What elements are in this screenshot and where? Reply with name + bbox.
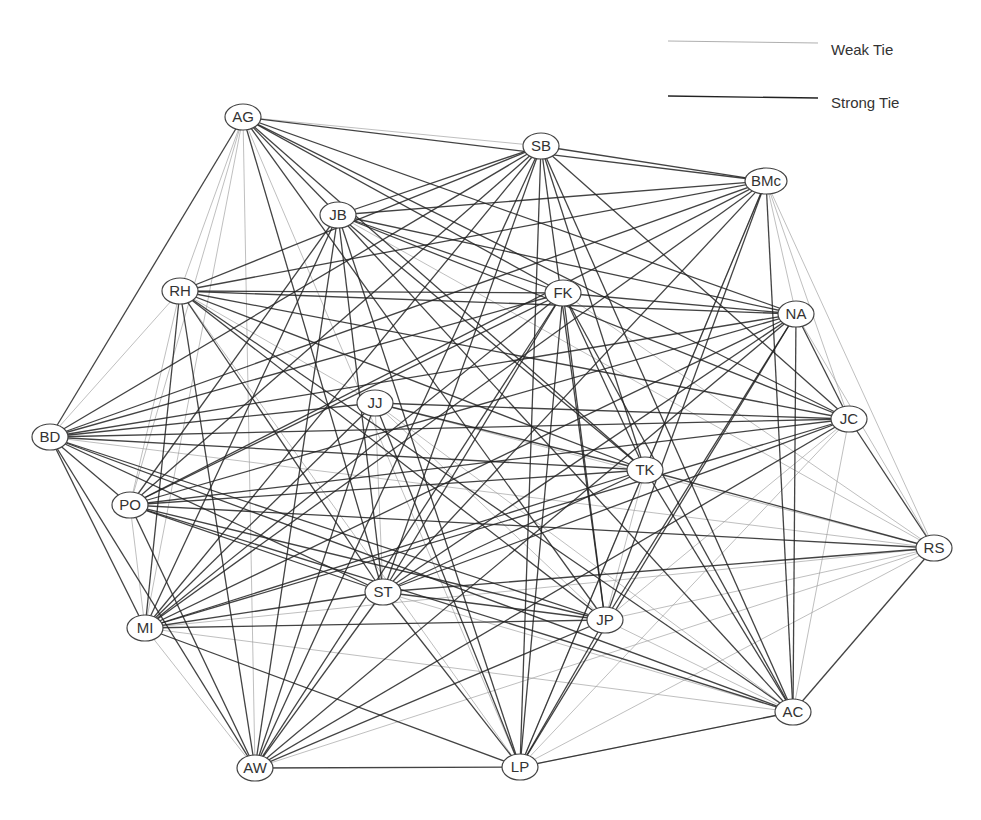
strong-tie-edge-JB-FK: [338, 215, 563, 293]
weak-tie-edge-RS-MI: [145, 548, 934, 628]
node-label: PO: [119, 496, 141, 513]
strong-tie-edge-AW-LP: [255, 767, 520, 768]
weak-tie-edge-AG-LP: [243, 117, 520, 767]
node-mi: MI: [127, 615, 163, 641]
node-rs: RS: [916, 535, 952, 561]
weak-tie-edge-RS-AW: [255, 548, 934, 768]
node-jb: JB: [320, 202, 356, 228]
weak-tie-edge-RS-JP: [605, 548, 934, 620]
node-label: RH: [169, 282, 191, 299]
node-bmc: BMc: [745, 168, 787, 194]
weak-tie-edge-AG-RH: [180, 117, 243, 291]
strong-tie-edge-ST-MI: [145, 592, 383, 628]
node-label: NA: [786, 305, 807, 322]
node-label: ST: [373, 583, 392, 600]
node-jp: JP: [587, 607, 623, 633]
node-lp: LP: [502, 754, 538, 780]
weak-tie-edge-BMc-RS: [766, 181, 934, 548]
node-label: AG: [232, 108, 254, 125]
weak-tie-edge-RH-PO: [130, 291, 180, 505]
node-label: JJ: [368, 394, 383, 411]
weak-tie-edge-RS-LP: [520, 548, 934, 767]
node-st: ST: [365, 579, 401, 605]
node-label: BMc: [751, 172, 782, 189]
strong-tie-edge-ST-RS: [383, 548, 934, 592]
strong-tie-edge-SB-PO: [130, 146, 541, 505]
strong-tie-edge-BMc-AC: [766, 181, 793, 712]
weak-tie-edge-RH-BD: [50, 291, 180, 437]
node-tk: TK: [627, 457, 663, 483]
weak-tie-edge-JC-AC: [793, 419, 849, 712]
node-aw: AW: [237, 755, 273, 781]
weak-tie-edges: [50, 117, 934, 768]
node-jj: JJ: [357, 390, 393, 416]
weak-tie-edge-PO-MI: [130, 505, 145, 628]
legend-strong-tie-label: Strong Tie: [831, 94, 899, 111]
strong-tie-edge-JP-AW: [255, 620, 605, 768]
network-graph: AGSBBMcJBRHFKNAJJJCBDTKPORSSTMIJPACAWLP: [0, 0, 981, 820]
strong-tie-edge-AG-BMc: [243, 117, 766, 181]
strong-tie-edge-ST-LP: [383, 592, 520, 767]
node-po: PO: [112, 492, 148, 518]
node-label: RS: [924, 539, 945, 556]
strong-tie-edges: [50, 117, 934, 768]
strong-tie-edge-SB-RH: [180, 146, 541, 291]
strong-tie-edge-FK-LP: [520, 293, 563, 767]
strong-tie-edge-JB-PO: [130, 215, 338, 505]
node-fk: FK: [545, 280, 581, 306]
strong-tie-edge-FK-NA: [563, 293, 796, 314]
strong-tie-edge-AC-RS: [793, 548, 934, 712]
legend: [668, 41, 818, 98]
node-label: AC: [783, 703, 804, 720]
legend-weak-tie-line: [668, 41, 818, 43]
strong-tie-edge-NA-AC: [793, 314, 796, 712]
strong-tie-edge-BD-MI: [50, 437, 145, 628]
node-label: MI: [137, 619, 154, 636]
node-label: JP: [596, 611, 614, 628]
strong-tie-edge-RH-MI: [145, 291, 180, 628]
node-label: SB: [531, 137, 551, 154]
strong-tie-edge-JJ-AW: [255, 403, 375, 768]
legend-weak-tie-label: Weak Tie: [831, 41, 893, 58]
node-label: TK: [635, 461, 654, 478]
node-bd: BD: [32, 424, 68, 450]
strong-tie-edge-BMc-JB: [338, 181, 766, 215]
weak-tie-edge-BD-RS: [50, 437, 934, 548]
node-na: NA: [778, 301, 814, 327]
node-rh: RH: [162, 278, 198, 304]
strong-tie-edge-ST-JP: [383, 592, 605, 620]
node-label: JC: [840, 410, 859, 427]
weak-tie-edge-ST-AC: [383, 592, 793, 712]
node-ag: AG: [225, 104, 261, 130]
strong-tie-edge-AG-ST: [243, 117, 383, 592]
weak-tie-edge-RH-JJ: [180, 291, 375, 403]
node-ac: AC: [775, 699, 811, 725]
weak-tie-edge-JJ-JP: [375, 403, 605, 620]
strong-tie-edge-SB-JB: [338, 146, 541, 215]
node-label: AW: [243, 759, 267, 776]
node-jc: JC: [831, 406, 867, 432]
strong-tie-edge-AC-LP: [520, 712, 793, 767]
strong-tie-edge-TK-PO: [130, 470, 645, 505]
node-sb: SB: [523, 133, 559, 159]
weak-tie-edge-FK-RS: [563, 293, 934, 548]
node-label: BD: [40, 428, 61, 445]
node-label: JB: [329, 206, 347, 223]
node-label: LP: [511, 758, 529, 775]
node-label: FK: [553, 284, 572, 301]
weak-tie-edge-BMc-NA: [766, 181, 796, 314]
weak-tie-edge-TK-JP: [605, 470, 645, 620]
legend-strong-tie-line: [668, 96, 818, 98]
strong-tie-edge-NA-JC: [796, 314, 849, 419]
